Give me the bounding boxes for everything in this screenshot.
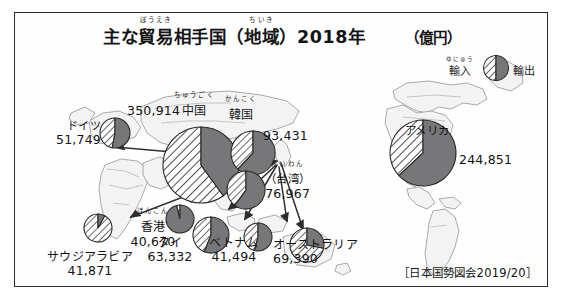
label-vietnam: ベトナム 41,494 bbox=[201, 237, 267, 264]
label-vietnam-value: 41,494 bbox=[201, 250, 267, 264]
ruby-yunyuu-reading: ゆにゅう bbox=[446, 55, 473, 63]
ruby-boueki: ぼうえき貿易 bbox=[138, 23, 173, 48]
label-usa: アメリカ bbox=[405, 125, 449, 138]
legend-pie-icon bbox=[483, 55, 509, 81]
screenshot-root: 主なぼうえき貿易相手国（ちいき地域）2018年 （億円） ゆにゅう輸入 輸出 ド… bbox=[0, 0, 562, 301]
label-korea-value: 93,431 bbox=[263, 129, 308, 143]
label-taiwan: たいわん（台湾） 76,967 bbox=[265, 169, 310, 201]
label-saudi-value: 41,871 bbox=[31, 264, 149, 278]
legend-export-label: 輸出 bbox=[513, 62, 535, 78]
label-thailand-name: タイ bbox=[139, 237, 201, 250]
label-germany: ドイツ 51,749 bbox=[15, 121, 101, 147]
label-hongkong-ruby: ほんこん bbox=[137, 208, 170, 215]
label-korea: かんこく韓国 bbox=[229, 105, 254, 123]
chart-frame: 主なぼうえき貿易相手国（ちいき地域）2018年 （億円） ゆにゅう輸入 輸出 ド… bbox=[14, 12, 548, 287]
title-segment-before: 主な bbox=[103, 27, 138, 47]
label-taiwan-name: （台湾） bbox=[265, 172, 310, 186]
label-korea-name-ruby: かんこく韓国 bbox=[229, 105, 254, 123]
label-usa-name: アメリカ bbox=[405, 125, 449, 138]
ruby-chiiki-base: 地域 bbox=[244, 27, 279, 47]
title-segment-mid: 相手国（ bbox=[174, 27, 244, 47]
label-australia-value: 69,390 bbox=[273, 252, 358, 266]
source-citation: ［日本国勢図会2019/20］ bbox=[398, 264, 537, 280]
label-china: 350,914 ちゅうごく中国 bbox=[127, 101, 207, 119]
label-australia: オーストラリア 69,390 bbox=[273, 239, 358, 266]
label-germany-value: 51,749 bbox=[15, 133, 101, 147]
label-vietnam-name: ベトナム bbox=[201, 237, 267, 250]
chart-title-main: 主なぼうえき貿易相手国（ちいき地域）2018年 bbox=[103, 23, 365, 48]
legend-import-text: 輸入 bbox=[449, 65, 471, 78]
label-usa-value-wrap: 244,851 bbox=[459, 153, 512, 167]
label-australia-name: オーストラリア bbox=[273, 239, 358, 252]
label-usa-value: 244,851 bbox=[459, 153, 512, 167]
title-segment-after: ）2018年 bbox=[279, 27, 365, 47]
ruby-boueki-base: 貿易 bbox=[138, 27, 173, 47]
ruby-yunyuu: ゆにゅう輸入 bbox=[449, 62, 471, 78]
label-china-name: 中国 bbox=[182, 104, 207, 118]
pie-saudi bbox=[84, 214, 112, 242]
chart-title: 主なぼうえき貿易相手国（ちいき地域）2018年 （億円） bbox=[15, 23, 548, 48]
label-china-ruby: ちゅうごく bbox=[174, 92, 215, 99]
label-china-value: 350,914 bbox=[127, 103, 180, 118]
label-saudi-name: サウジアラビア bbox=[31, 251, 149, 264]
pie-germany-export-slice bbox=[112, 118, 130, 148]
label-taiwan-name-ruby: たいわん（台湾） bbox=[265, 169, 310, 187]
pie-germany bbox=[100, 118, 130, 148]
ruby-chiiki: ちいき地域 bbox=[244, 23, 279, 48]
label-taiwan-ruby: たいわん bbox=[271, 161, 304, 168]
label-hongkong-name: 香港 bbox=[141, 220, 166, 234]
ruby-boueki-reading: ぼうえき bbox=[140, 14, 173, 24]
legend-import-label: ゆにゅう輸入 bbox=[449, 62, 471, 78]
legend: ゆにゅう輸入 輸出 bbox=[449, 51, 545, 85]
label-korea-ruby: かんこく bbox=[225, 96, 258, 103]
label-korea-value-wrap: 93,431 bbox=[263, 129, 308, 143]
ruby-chiiki-reading: ちいき bbox=[249, 14, 274, 24]
chart-unit-label: （億円） bbox=[405, 26, 461, 47]
label-china-name-ruby: ちゅうごく中国 bbox=[182, 101, 207, 119]
label-taiwan-value: 76,967 bbox=[265, 187, 310, 201]
label-hongkong-name-ruby: ほんこん香港 bbox=[141, 217, 166, 235]
label-korea-name: 韓国 bbox=[229, 108, 254, 122]
label-saudi: サウジアラビア 41,871 bbox=[31, 251, 149, 278]
pie-taiwan bbox=[227, 171, 265, 209]
